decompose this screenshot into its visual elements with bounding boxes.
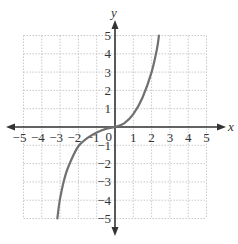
y-tick-label: −3 (97, 174, 111, 189)
y-tick-label: −4 (97, 193, 111, 208)
y-tick-label: 1 (105, 101, 112, 116)
y-tick-label: 3 (105, 65, 112, 80)
x-tick-label: 4 (185, 130, 192, 145)
y-axis-label: y (109, 5, 117, 20)
y-axis-up-arrow-icon (112, 20, 119, 29)
x-tick-label: 2 (148, 130, 155, 145)
x-tick-label: −5 (13, 130, 27, 145)
x-tick-label: −2 (67, 130, 81, 145)
y-tick-label: 5 (105, 28, 112, 43)
origin-label: 0 (106, 129, 113, 144)
y-tick-label: −5 (97, 211, 111, 226)
x-tick-label: 3 (167, 130, 174, 145)
x-tick-label: 5 (203, 130, 210, 145)
x-tick-label: 1 (130, 130, 137, 145)
chart: x y −5−4−3−2−11234554321−1−2−3−4−50 (0, 0, 238, 244)
y-tick-label: 4 (105, 46, 112, 61)
y-axis-down-arrow-icon (112, 227, 119, 236)
x-axis-label: x (227, 119, 234, 134)
axes: x y (6, 5, 234, 236)
x-tick-label: −4 (31, 130, 45, 145)
y-tick-label: 2 (105, 83, 112, 98)
y-tick-label: −2 (97, 156, 111, 171)
x-axis-right-arrow-icon (217, 124, 226, 131)
x-tick-label: −3 (49, 130, 63, 145)
